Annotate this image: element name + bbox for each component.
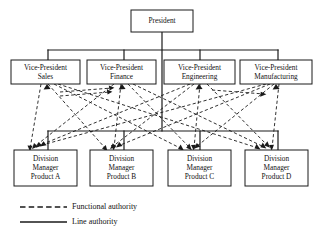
arrowhead-into-vp-sales [44, 84, 51, 89]
node-division-manager-d[interactable]: Division Manager Product D [245, 150, 308, 186]
dm-b-line1: Division [109, 154, 134, 163]
dm-b-line3: Product B [107, 172, 137, 181]
arrowhead-sales-finance [109, 86, 115, 91]
legend: Functional authority Line authority [20, 202, 137, 226]
node-vp-sales[interactable]: Vice-President Sales [11, 60, 80, 84]
node-division-manager-b[interactable]: Division Manager Product B [90, 150, 153, 186]
functional-edge-mfg-b [118, 84, 270, 146]
functional-edge-sales-b [48, 84, 106, 149]
dm-a-line2: Manager [33, 163, 60, 172]
vp-sales-title: Vice-President [24, 63, 67, 72]
node-division-manager-a[interactable]: Division Manager Product A [14, 150, 77, 186]
dm-c-line3: Product C [185, 172, 215, 181]
node-president[interactable]: President [131, 10, 193, 32]
vp-manufacturing-dept: Manufacturing [254, 72, 298, 81]
arrowhead-into-vp-finance [119, 84, 126, 89]
node-division-manager-c[interactable]: Division Manager Product C [168, 150, 231, 186]
dm-d-line3: Product D [262, 172, 292, 181]
functional-edge-finance-a [34, 84, 114, 147]
functional-edge-sales-a [30, 84, 41, 149]
arrowhead-mfg-a [40, 141, 47, 146]
node-vp-engineering[interactable]: Vice-President Engineering [164, 60, 235, 84]
vp-finance-dept: Finance [110, 72, 133, 81]
vp-engineering-title: Vice-President [178, 63, 221, 72]
node-vp-manufacturing[interactable]: Vice-President Manufacturing [240, 60, 312, 84]
functional-authority-connectors [28, 84, 280, 152]
legend-line-label: Line authority [72, 217, 118, 226]
node-vp-finance[interactable]: Vice-President Finance [87, 60, 156, 84]
dm-a-line1: Division [33, 154, 58, 163]
line-authority-connectors [48, 32, 278, 150]
functional-edge-finance-c [128, 84, 190, 148]
vp-engineering-dept: Engineering [182, 72, 218, 81]
president-label: President [148, 16, 175, 25]
arrowhead-into-vp-engineering [196, 84, 203, 89]
functional-edge-finance-b [114, 84, 121, 148]
dm-d-line1: Division [264, 154, 289, 163]
dm-c-line1: Division [187, 154, 212, 163]
legend-functional-label: Functional authority [72, 202, 137, 211]
org-chart-diagram: President Vice-President Sales Vice-Pres… [0, 0, 321, 241]
dm-a-line3: Product A [31, 172, 61, 181]
dm-c-line2: Manager [187, 163, 214, 172]
vp-sales-dept: Sales [38, 72, 54, 81]
vp-manufacturing-title: Vice-President [255, 63, 298, 72]
functional-edge-eng-a [38, 84, 190, 146]
dm-d-line2: Manager [264, 163, 291, 172]
dm-b-line2: Manager [109, 163, 136, 172]
vp-finance-title: Vice-President [100, 63, 143, 72]
